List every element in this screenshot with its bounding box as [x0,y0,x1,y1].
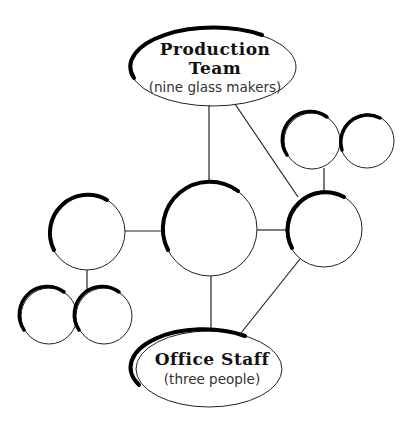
production-team-node: Production Team (nine glass makers) [130,28,296,106]
top-right-pair [282,111,394,169]
office-staff-title: Office Staff [155,349,271,369]
bottom-left-node-a [21,288,77,344]
bottom-left-pair [19,286,132,344]
bottom-left-node-b [76,288,132,344]
top-right-node-a [284,113,340,169]
left-node [49,194,125,270]
network-diagram: Production Team (nine glass makers) Offi… [0,0,417,433]
edge-right-office [241,259,300,333]
office-staff-subtitle: (three people) [164,371,260,387]
production-team-subtitle: (nine glass makers) [149,79,282,95]
production-team-title-line1: Production [160,39,271,59]
right-node [286,191,362,267]
production-team-title-line2: Team [189,58,242,78]
office-staff-node: Office Staff (three people) [131,329,282,407]
center-node [163,182,257,276]
